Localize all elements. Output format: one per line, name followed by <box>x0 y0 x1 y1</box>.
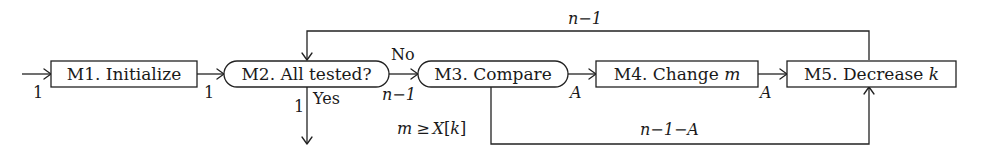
label-m2-m3-count: n−1 <box>382 85 416 104</box>
node-m1-label: M1. Initialize <box>67 64 181 84</box>
node-m4-label-var: m <box>724 64 740 84</box>
label-m1-m2-count: 1 <box>204 83 214 102</box>
node-m4-label-text: M4. Change <box>614 64 724 84</box>
label-m3-m4-count: A <box>568 83 582 102</box>
node-m4-label: M4. Change m <box>614 64 741 84</box>
node-m4-change-m: M4. Change m <box>596 61 758 87</box>
node-m5-label-text: M5. Decrease <box>804 64 929 84</box>
node-m5-decrease-k: M5. Decrease k <box>787 61 956 87</box>
flowchart-diagram: M1. Initialize M2. All tested? M3. Compa… <box>0 0 988 152</box>
node-m2-all-tested: M2. All tested? <box>224 61 389 87</box>
label-start-count: 1 <box>33 83 43 102</box>
label-m4-m5-count: A <box>758 83 772 102</box>
label-yes-count: 1 <box>294 97 304 116</box>
cond-bracket-close: ] <box>460 119 466 138</box>
label-no: No <box>391 45 415 64</box>
edge-start-to-m1 <box>22 69 51 79</box>
edge-m1-to-m2 <box>197 69 224 79</box>
node-m2-label: M2. All tested? <box>241 64 371 84</box>
node-m3-label: M3. Compare <box>434 64 552 84</box>
edge-m2-to-m3 <box>389 69 418 79</box>
cond-m: m <box>397 119 412 138</box>
node-m3-compare: M3. Compare <box>418 61 568 87</box>
cond-x: X <box>431 119 445 138</box>
node-m5-label: M5. Decrease k <box>804 64 939 84</box>
label-bypass-count: n−1−A <box>640 120 699 139</box>
edge-m5-loop-to-m2 <box>302 31 869 60</box>
node-m1-initialize: M1. Initialize <box>51 61 197 87</box>
cond-k: k <box>450 119 460 138</box>
cond-ge: ≥ <box>416 119 429 138</box>
edge-m4-to-m5 <box>758 69 787 79</box>
label-loop-count: n−1 <box>568 9 602 28</box>
node-m5-label-var: k <box>929 64 939 84</box>
label-condition: m≥X[k] <box>397 119 466 138</box>
label-yes: Yes <box>312 89 340 108</box>
edge-m3-to-m4 <box>568 69 596 79</box>
